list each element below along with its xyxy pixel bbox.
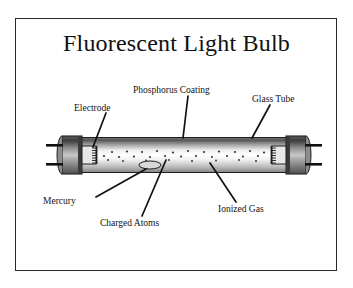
label-charged-atoms: Charged Atoms [100,219,159,229]
right-end-cap [286,136,311,174]
label-glass-tube: Glass Tube [252,95,295,105]
label-phosphorus: Phosphorus Coating [133,86,210,96]
left-electrode [82,146,97,164]
diagram-artwork [0,0,353,288]
leader-glass-tube [252,105,270,138]
fluorescent-light-bulb-figure: Fluorescent Light Bulb [0,0,353,288]
mercury-droplet [139,161,161,169]
leader-phosphorus [183,96,188,138]
label-ionized-gas: Ionized Gas [218,205,264,215]
leader-mercury [96,169,146,197]
label-mercury: Mercury [43,197,76,207]
left-end-cap [57,136,82,174]
label-electrode: Electrode [74,104,110,114]
glass-tube [68,137,286,173]
right-electrode [271,146,286,164]
